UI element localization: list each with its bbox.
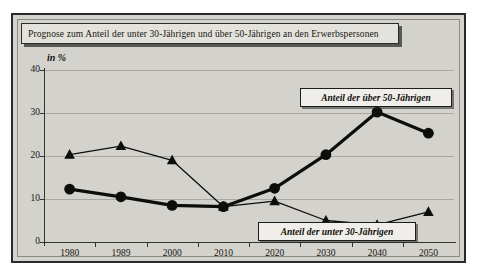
data-point-circle (64, 184, 75, 195)
data-point-circle (321, 149, 332, 160)
data-point-triangle (423, 206, 434, 216)
series-under-30 (64, 141, 433, 229)
legend-label-under-30: Anteil der unter 30-Jährigen (258, 222, 416, 241)
legend-label-over-50-text: Anteil der über 50-Jährigen (321, 93, 431, 103)
series-line (70, 146, 429, 225)
chart-figure: Prognose zum Anteil der unter 30-Jährige… (0, 0, 482, 280)
legend-label-under-30-text: Anteil der unter 30-Jährigen (281, 227, 394, 237)
data-point-circle (269, 183, 280, 194)
data-point-circle (372, 107, 383, 118)
series-over-50 (64, 107, 434, 212)
data-point-triangle (116, 141, 127, 151)
data-point-circle (167, 200, 178, 211)
data-point-circle (423, 128, 434, 139)
data-point-circle (116, 191, 127, 202)
data-point-triangle (269, 196, 280, 206)
legend-label-over-50: Anteil der über 50-Jährigen (300, 88, 452, 107)
